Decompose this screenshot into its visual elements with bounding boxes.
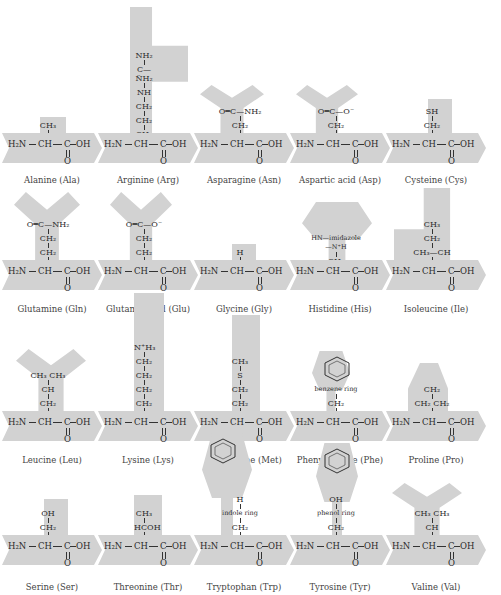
bond-line <box>125 546 132 547</box>
bond-line <box>413 546 420 547</box>
hydroxyl-group: OH <box>76 541 90 551</box>
bond-line <box>245 546 254 547</box>
side-chain-group: CH₃ CH₃ <box>406 509 458 518</box>
side-chain-group: CH <box>406 523 458 532</box>
amino-acid-valine: CH₃ CH₃CHH₂NCHCOHOValine (Val) <box>386 0 486 595</box>
bond-line <box>166 546 172 547</box>
alpha-carbon: CH <box>422 541 436 551</box>
side-chain-formula: OHphenol ringCH₂ <box>310 495 362 537</box>
bond-line <box>450 552 454 559</box>
bond-line <box>70 546 76 547</box>
benzene-ring-icon <box>322 447 352 475</box>
bond-line <box>354 552 358 559</box>
bond-line <box>162 552 166 559</box>
amino-acid-label: Tyrosine (Tyr) <box>290 582 390 592</box>
amino-acid-threonine: CH₃HCOHH₂NCHCOHOThreonine (Thr) <box>98 0 198 595</box>
amine-group: H₂N <box>104 541 122 551</box>
bond-line <box>262 546 268 547</box>
bond-line <box>66 552 70 559</box>
side-chain-formula: CH₃ CH₃CH <box>406 509 458 537</box>
carbonyl-oxygen: O <box>352 558 359 568</box>
alpha-carbon: CH <box>326 541 340 551</box>
carbonyl-oxygen: O <box>448 558 455 568</box>
amine-group: H₂N <box>8 541 26 551</box>
indole-ring-icon <box>208 437 238 465</box>
amino-acid-label: Valine (Val) <box>386 582 486 592</box>
side-chain-group: H <box>214 495 266 504</box>
side-chain-group: CH₃ <box>134 509 154 518</box>
side-chain-group: indole ring <box>214 509 266 518</box>
side-chain-group: OH <box>310 495 362 504</box>
carbonyl-oxygen: O <box>64 558 71 568</box>
amine-group: H₂N <box>200 541 218 551</box>
side-chain-group: CH₂ <box>310 523 362 532</box>
side-chain-formula: CH₃HCOH <box>134 509 154 537</box>
bond-line <box>317 546 324 547</box>
hydroxyl-group: OH <box>460 541 474 551</box>
hydroxyl-group: OH <box>268 541 282 551</box>
side-chain-group: CH₂ <box>38 523 58 532</box>
side-chain-formula: Hindole ringCH₂ <box>214 495 266 537</box>
amino-acid-tyrosine: OHphenol ringCH₂H₂NCHCOHOTyrosine (Tyr) <box>290 0 390 595</box>
side-chain-group: HCOH <box>134 523 154 532</box>
amino-acid-label: Tryptophan (Trp) <box>194 582 294 592</box>
amino-acid-label: Threonine (Thr) <box>98 582 198 592</box>
alpha-carbon: CH <box>38 541 52 551</box>
bond-line <box>258 552 262 559</box>
bond-line <box>149 546 158 547</box>
bond-line <box>341 546 350 547</box>
carbonyl-oxygen: O <box>160 558 167 568</box>
amino-acid-serine: OHCH₂H₂NCHCOHOSerine (Ser) <box>2 0 102 595</box>
bond-line <box>437 546 446 547</box>
bond-line <box>221 546 228 547</box>
bond-line <box>358 546 364 547</box>
side-chain-group: phenol ring <box>310 509 362 518</box>
hydroxyl-group: OH <box>364 541 378 551</box>
side-chain-formula: OHCH₂ <box>38 509 58 537</box>
bond-line <box>454 546 460 547</box>
side-chain-group: OH <box>38 509 58 518</box>
hydroxyl-group: OH <box>172 541 186 551</box>
alpha-carbon: CH <box>230 541 244 551</box>
alpha-carbon: CH <box>134 541 148 551</box>
carbonyl-oxygen: O <box>256 558 263 568</box>
bond-line <box>53 546 62 547</box>
amino-acid-tryptophan: Hindole ringCH₂H₂NCHCOHOTryptophan (Trp) <box>194 0 294 595</box>
side-chain-group: CH₂ <box>214 523 266 532</box>
amine-group: H₂N <box>392 541 410 551</box>
amine-group: H₂N <box>296 541 314 551</box>
bond-line <box>29 546 36 547</box>
amino-acid-label: Serine (Ser) <box>2 582 102 592</box>
